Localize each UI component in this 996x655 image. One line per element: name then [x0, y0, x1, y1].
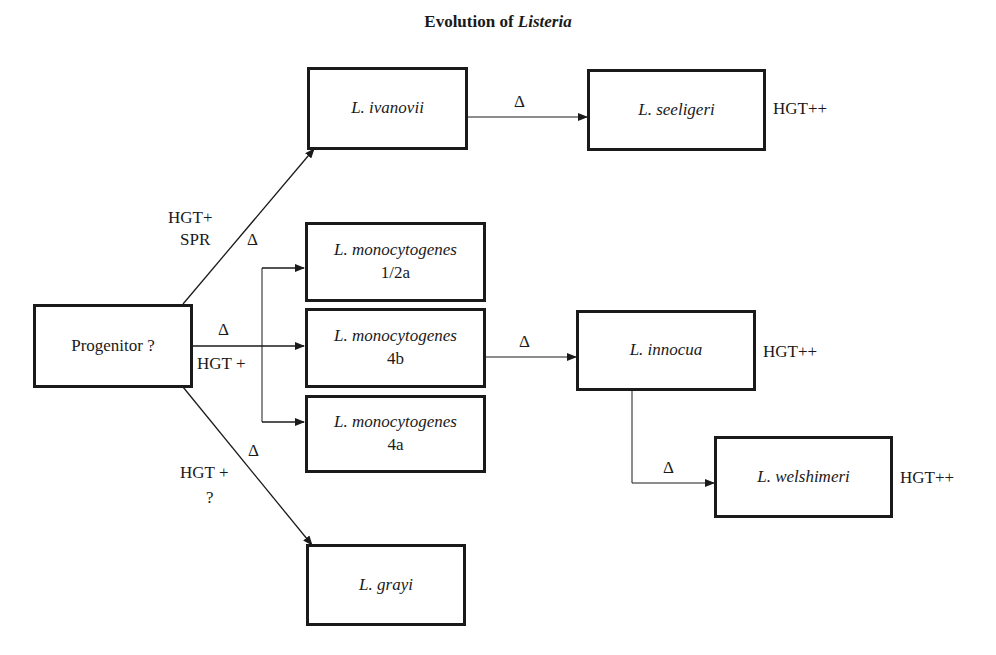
node-label: L. ivanovii [351, 97, 424, 120]
node-mono-12a: L. monocytogenes 1/2a [305, 222, 486, 302]
edge-delta-ivanovii: Δ [247, 230, 258, 250]
node-innocua: L. innocua [576, 310, 756, 391]
node-label: L. innocua [630, 339, 703, 362]
edge-delta-welshimeri: Δ [663, 458, 674, 478]
innocua-annotation: HGT++ [763, 342, 817, 362]
node-label: L. grayi [359, 574, 413, 597]
edge-label-ivanovii-spr: SPR [180, 230, 210, 250]
node-mono-4a: L. monocytogenes 4a [305, 395, 486, 473]
node-label: L. monocytogenes [334, 325, 457, 348]
edge-delta-innocua: Δ [519, 332, 530, 352]
edge-delta-seeligeri: Δ [514, 92, 525, 112]
edge-label-monocytogenes-hgt: HGT + [197, 354, 245, 374]
node-serotype: 4b [387, 348, 404, 371]
node-serotype: 1/2a [381, 262, 410, 285]
node-serotype: 4a [387, 434, 403, 457]
seeligeri-annotation: HGT++ [773, 99, 827, 119]
edge-delta-monocytogenes: Δ [218, 320, 229, 340]
node-ivanovii: L. ivanovii [307, 67, 468, 150]
edge-label-grayi-question: ? [206, 488, 214, 508]
welshimeri-annotation: HGT++ [900, 468, 954, 488]
node-mono-4b: L. monocytogenes 4b [305, 308, 486, 388]
node-label: L. monocytogenes [334, 411, 457, 434]
node-label: L. welshimeri [757, 466, 850, 489]
node-grayi: L. grayi [306, 544, 466, 626]
node-progenitor: Progenitor ? [33, 304, 193, 388]
edge-delta-grayi: Δ [248, 441, 259, 461]
node-label: Progenitor ? [71, 335, 155, 358]
node-label: L. monocytogenes [334, 239, 457, 262]
node-welshimeri: L. welshimeri [714, 436, 893, 518]
node-seeligeri: L. seeligeri [587, 69, 766, 151]
edge-label-ivanovii-hgt: HGT+ [168, 208, 213, 228]
edge-label-grayi-hgt: HGT + [180, 463, 228, 483]
node-label: L. seeligeri [638, 99, 715, 122]
